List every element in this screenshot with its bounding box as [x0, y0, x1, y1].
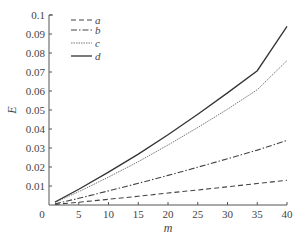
y-tick-label: 0.09 — [26, 28, 46, 40]
x-tick-label: 30 — [222, 208, 234, 220]
legend-label-b: b — [95, 24, 101, 36]
x-tick-label: 15 — [133, 208, 145, 220]
series-line-b — [55, 140, 287, 204]
y-tick-label: 0.04 — [26, 123, 46, 135]
series-line-a — [55, 180, 287, 204]
x-tick-label: 5 — [76, 208, 82, 220]
x-tick-label: 10 — [103, 208, 115, 220]
x-tick-label: 35 — [252, 208, 264, 220]
y-tick-label: 0.1 — [31, 9, 45, 21]
x-tick-label: 20 — [163, 208, 175, 220]
y-axis-label: E — [5, 106, 19, 115]
y-tick-label: 0.01 — [26, 180, 45, 192]
x-tick-label: 40 — [282, 208, 294, 220]
legend-label-d: d — [95, 50, 101, 62]
y-tick-label: 0.07 — [26, 66, 46, 78]
x-axis-label: m — [164, 221, 173, 235]
x-tick-label: 0 — [39, 208, 45, 220]
series-line-c — [55, 61, 287, 203]
y-tick-label: 0.03 — [26, 142, 46, 154]
legend-label-c: c — [95, 37, 100, 49]
y-tick-label: 0.08 — [26, 47, 46, 59]
x-tick-label: 25 — [192, 208, 204, 220]
y-tick-label: 0.06 — [26, 85, 46, 97]
line-chart: 05101520253035400.010.020.030.040.050.06… — [0, 0, 301, 236]
series-line-d — [55, 26, 287, 202]
y-tick-label: 0.02 — [26, 161, 45, 173]
y-tick-label: 0.05 — [26, 104, 46, 116]
